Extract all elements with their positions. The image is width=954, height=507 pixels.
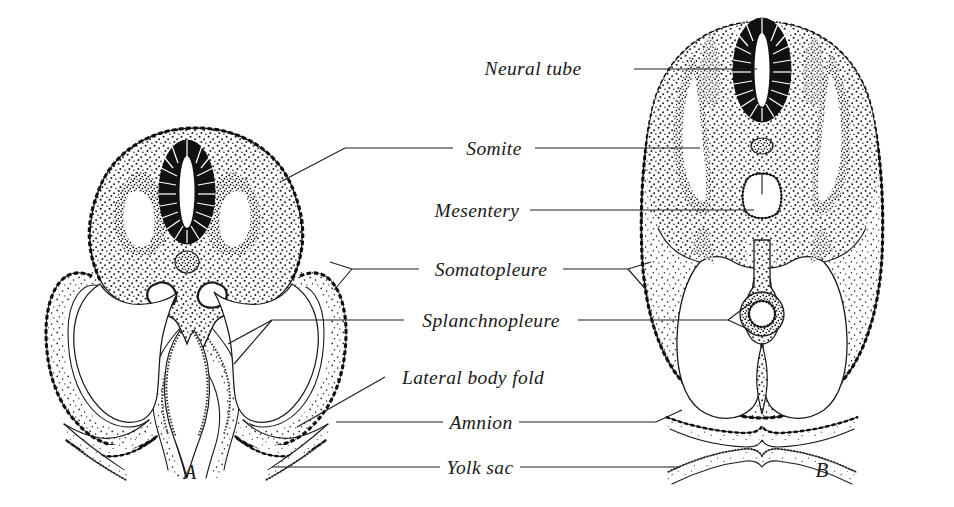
label-yolk-sac: Yolk sac: [447, 457, 514, 478]
notochord-b: [751, 138, 773, 154]
figure-canvas: A: [0, 0, 954, 507]
label-amnion: Amnion: [447, 412, 512, 433]
label-somite: Somite: [466, 138, 521, 159]
embryology-figure: A: [0, 0, 954, 507]
label-splanchnopleure: Splanchnopleure: [422, 310, 559, 331]
notochord-a: [175, 251, 199, 273]
coelom-b: [677, 257, 761, 419]
neural-tube-a: [159, 140, 215, 244]
label-neural-tube: Neural tube: [483, 58, 581, 79]
panel-letter-b: B: [816, 458, 829, 482]
gut-tube-b: [740, 292, 784, 336]
panel-letter-a: A: [182, 460, 197, 484]
coelom-b-right: [763, 257, 847, 419]
label-mesentery: Mesentery: [434, 200, 520, 221]
neural-tube-b: [733, 18, 791, 122]
label-somatopleure: Somatopleure: [435, 259, 547, 280]
label-lateral-body-fold: Lateral body fold: [401, 367, 544, 388]
